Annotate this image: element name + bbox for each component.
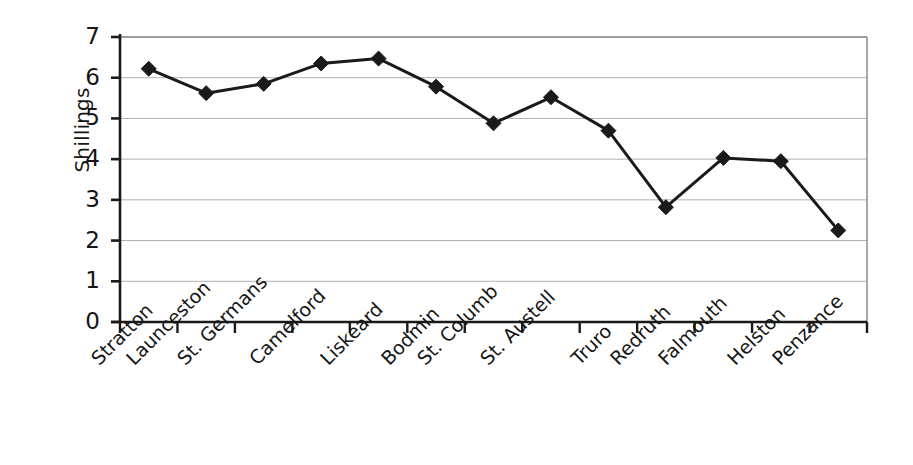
y-axis-tick-label: 3 [74, 188, 100, 211]
data-series-line [149, 59, 839, 231]
y-axis-tick-label: 0 [74, 310, 100, 333]
data-point-marker [256, 76, 271, 91]
y-axis-tick-label: 6 [74, 66, 100, 89]
y-axis-tick-label: 2 [74, 229, 100, 252]
chart-plot-area [0, 0, 913, 465]
y-axis-tick-label: 1 [74, 269, 100, 292]
y-axis-tick-label: 5 [74, 106, 100, 129]
y-axis-tick-label: 4 [74, 147, 100, 170]
line-chart: Shillings 01234567 StrattonLauncestonSt.… [0, 0, 913, 465]
data-point-markers [141, 51, 846, 238]
y-axis-ticks [111, 37, 120, 322]
data-point-marker [314, 56, 329, 71]
y-axis-tick-label: 7 [74, 25, 100, 48]
plot-border [120, 37, 867, 322]
data-point-marker [141, 61, 156, 76]
data-point-marker [371, 51, 386, 66]
axis-lines [111, 34, 867, 322]
data-point-marker [199, 86, 214, 101]
data-point-marker [429, 79, 444, 94]
data-point-marker [543, 90, 558, 105]
